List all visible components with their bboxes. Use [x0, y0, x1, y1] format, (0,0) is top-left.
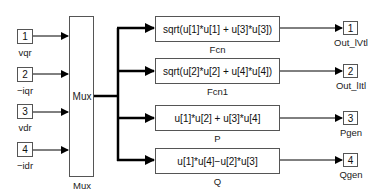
inport-4-label: −idr [12, 160, 38, 171]
inport-3-label: vdr [12, 122, 38, 133]
mux-inner-label: Mux [68, 91, 96, 102]
inport-4[interactable]: 4 [17, 142, 33, 157]
mux-block[interactable]: Mux [69, 16, 94, 177]
inport-1[interactable]: 1 [17, 29, 33, 44]
outport-1[interactable]: 1 [343, 21, 358, 35]
outport-3[interactable]: 3 [343, 111, 358, 125]
fcn-label: Fcn [155, 44, 280, 55]
outport-1-label: Out_lVtl [326, 37, 376, 48]
inport-3[interactable]: 3 [17, 104, 33, 119]
inport-1-label: vqr [12, 47, 38, 58]
p-block[interactable]: u[1]*u[2] + u[3]*u[4] [155, 105, 280, 131]
outport-4[interactable]: 4 [343, 153, 358, 167]
fcn-block[interactable]: sqrt(u[1]*u[1] + u[3]*u[3]) [155, 16, 280, 42]
bus-wires [93, 28, 154, 161]
fcn1-block[interactable]: sqrt(u[2]*u[2] + u[4]*u[4]) [155, 58, 280, 84]
mux-label: Mux [66, 180, 98, 191]
inport-2[interactable]: 2 [17, 67, 33, 82]
fcn1-label: Fcn1 [155, 86, 280, 97]
outport-3-label: Pgen [326, 127, 376, 138]
outport-4-label: Qgen [326, 169, 376, 180]
q-block[interactable]: u[1]*u[4]−u[2]*u[3] [155, 148, 280, 174]
q-label: Q [155, 176, 280, 187]
p-label: P [155, 133, 280, 144]
outport-2-label: Out_lItl [326, 80, 376, 91]
inport-2-label: −iqr [12, 85, 38, 96]
outport-2[interactable]: 2 [343, 64, 358, 78]
